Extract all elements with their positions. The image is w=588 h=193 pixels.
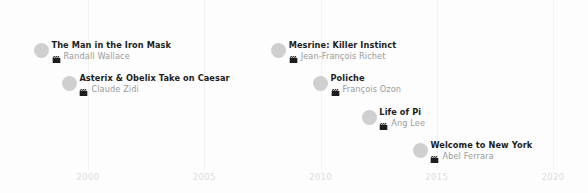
clapperboard-icon	[289, 53, 298, 62]
event-director: Ang Lee	[391, 118, 425, 129]
event-title: Poliche	[331, 73, 402, 84]
x-tick-label: 2000	[76, 172, 99, 182]
clapperboard-icon	[430, 153, 439, 162]
event-director: Jean-François Richet	[301, 51, 386, 62]
clapperboard-icon	[331, 86, 340, 95]
event-marker-dot[interactable]	[313, 76, 328, 91]
x-tick-label: 2010	[309, 172, 332, 182]
event-subtitle-row: Claude Zidi	[79, 84, 229, 95]
event-director: Claude Zidi	[91, 84, 139, 95]
event-title: Mesrine: Killer Instinct	[289, 40, 397, 51]
event-subtitle-row: Abel Ferrara	[430, 151, 532, 162]
event-label-group: Life of PiAng Lee	[379, 107, 425, 129]
event-director: Randall Wallace	[64, 51, 130, 62]
event-subtitle-row: Randall Wallace	[52, 51, 172, 62]
event-marker-dot[interactable]	[62, 76, 77, 91]
clapperboard-icon	[379, 120, 388, 129]
x-tick-label: 2005	[193, 172, 216, 182]
event-marker-dot[interactable]	[271, 43, 286, 58]
event-subtitle-row: François Ozon	[331, 84, 402, 95]
event-subtitle-row: Jean-François Richet	[289, 51, 397, 62]
event-marker-dot[interactable]	[34, 43, 49, 58]
clapperboard-icon	[52, 53, 61, 62]
event-title: Life of Pi	[379, 107, 425, 118]
movie-timeline-chart: 20002005201020152020 The Man in the Iron…	[0, 0, 588, 193]
event-director: Abel Ferrara	[442, 151, 493, 162]
x-tick-label: 2015	[425, 172, 448, 182]
event-title: Welcome to New York	[430, 140, 532, 151]
event-label-group: PolicheFrançois Ozon	[331, 73, 402, 95]
event-label-group: Mesrine: Killer InstinctJean-François Ri…	[289, 40, 397, 62]
event-title: The Man in the Iron Mask	[52, 40, 172, 51]
event-label-group: Asterix & Obelix Take on CaesarClaude Zi…	[79, 73, 229, 95]
clapperboard-icon	[79, 86, 88, 95]
event-label-group: The Man in the Iron MaskRandall Wallace	[52, 40, 172, 62]
event-label-group: Welcome to New YorkAbel Ferrara	[430, 140, 532, 162]
event-subtitle-row: Ang Lee	[379, 118, 425, 129]
gridline-2020	[553, 0, 554, 170]
event-marker-dot[interactable]	[362, 110, 377, 125]
x-tick-label: 2020	[541, 172, 564, 182]
event-director: François Ozon	[343, 84, 402, 95]
event-title: Asterix & Obelix Take on Caesar	[79, 73, 229, 84]
event-marker-dot[interactable]	[413, 143, 428, 158]
